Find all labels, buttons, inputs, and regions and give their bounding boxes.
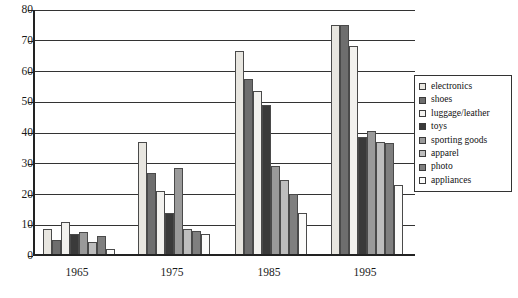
bar [79,232,88,254]
bar [52,240,61,254]
bar [367,131,376,254]
plot-inner [35,10,415,254]
bar-group [331,10,403,254]
legend-item: shoes [419,93,508,106]
bar [165,213,174,255]
bar [349,46,358,254]
y-tick-mark [28,256,33,257]
legend-item: appliances [419,174,508,187]
legend-item: photo [419,160,508,173]
legend-label: luggage/leather [431,109,490,119]
legend-label: photo [431,162,453,172]
x-tick-label: 1995 [325,266,405,278]
bar [156,191,165,254]
bar [394,185,403,254]
bar [358,137,367,254]
x-tick-label: 1985 [229,266,309,278]
legend-label: appliances [431,176,471,186]
legend-label: toys [431,122,447,132]
bar [61,222,70,254]
x-tick-label: 1975 [132,266,212,278]
bar-group [43,10,115,254]
bar [385,143,394,254]
legend-label: sporting goods [431,136,487,146]
bar [331,25,340,254]
plot-area [33,10,415,256]
x-tick-label: 1965 [37,266,117,278]
legend-item: apparel [419,147,508,160]
legend-swatch-icon [419,110,426,117]
bar-group [235,10,307,254]
legend-item: toys [419,120,508,133]
legend-swatch-icon [419,123,426,130]
legend-item: electronics [419,80,508,93]
bar [43,229,52,254]
bar [298,213,307,255]
y-axis: 01020304050607080 [0,10,33,256]
legend-swatch-icon [419,164,426,171]
legend-swatch-icon [419,83,426,90]
bar [244,79,253,254]
bar [70,234,79,254]
legend-item: luggage/leather [419,107,508,120]
legend-label: electronics [431,82,472,92]
legend-swatch-icon [419,97,426,104]
bar [106,249,115,254]
legend-label: shoes [431,95,452,105]
bar [340,25,349,254]
bar-chart: 01020304050607080 1965197519851995 elect… [0,0,518,298]
legend-item: sporting goods [419,134,508,147]
legend: electronicsshoesluggage/leathertoyssport… [414,75,512,192]
bar [376,142,385,254]
bar [235,51,244,254]
bar-group [138,10,210,254]
bar [88,242,97,254]
bar [97,236,106,254]
bar [174,168,183,254]
legend-label: apparel [431,149,459,159]
bar [280,180,289,254]
bar [138,142,147,254]
bar [289,194,298,254]
bar [253,91,262,254]
bar [201,234,210,254]
bar [192,231,201,254]
legend-swatch-icon [419,177,426,184]
bar [147,173,156,254]
legend-swatch-icon [419,150,426,157]
bar [183,229,192,254]
bar [262,105,271,254]
legend-swatch-icon [419,137,426,144]
bar [271,166,280,254]
